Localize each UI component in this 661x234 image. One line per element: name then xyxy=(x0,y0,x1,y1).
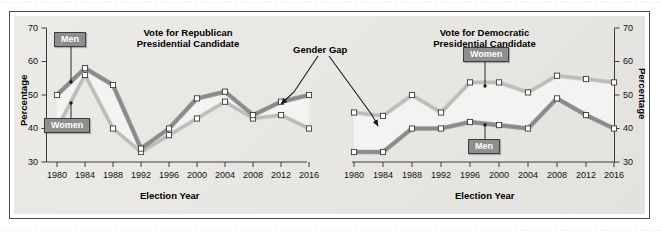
right-xtick-1980: 1980 xyxy=(340,170,368,180)
right-xtick-1988: 1988 xyxy=(398,170,426,180)
left-xtick-2000: 2000 xyxy=(183,170,211,180)
right-men-label: Men xyxy=(468,139,500,154)
right-ytick-40: 40 xyxy=(623,123,639,133)
gender-gap-annotation: Gender Gap xyxy=(293,44,347,55)
left-y-axis-title: Percentage xyxy=(18,75,29,126)
right-xtick-2000: 2000 xyxy=(485,170,513,180)
right-xtick-1992: 1992 xyxy=(427,170,455,180)
left-chart-title: Vote for Republican Presidential Candida… xyxy=(118,27,258,49)
right-y-axis-title: Percentage xyxy=(637,68,648,119)
right-title-line1: Vote for Democratic xyxy=(440,27,530,38)
left-xtick-2004: 2004 xyxy=(211,170,239,180)
right-xtick-2004: 2004 xyxy=(514,170,542,180)
left-xtick-1988: 1988 xyxy=(99,170,127,180)
left-title-line1: Vote for Republican xyxy=(143,27,232,38)
right-xtick-2008: 2008 xyxy=(543,170,571,180)
right-ytick-70: 70 xyxy=(623,23,639,33)
left-xtick-1992: 1992 xyxy=(127,170,155,180)
left-men-label: Men xyxy=(54,32,86,47)
right-ytick-60: 60 xyxy=(623,56,639,66)
left-x-axis-title: Election Year xyxy=(140,190,200,201)
right-chart-title: Vote for Democratic Presidential Candida… xyxy=(412,27,557,49)
right-xtick-2012: 2012 xyxy=(572,170,600,180)
left-ytick-70: 70 xyxy=(22,23,38,33)
left-ytick-30: 30 xyxy=(22,157,38,167)
left-xtick-2016: 2016 xyxy=(295,170,323,180)
left-women-label: Women xyxy=(44,118,90,133)
right-ytick-30: 30 xyxy=(623,157,639,167)
left-xtick-1996: 1996 xyxy=(155,170,183,180)
right-x-axis-title: Election Year xyxy=(455,190,515,201)
right-women-label: Women xyxy=(463,47,509,62)
right-xtick-1996: 1996 xyxy=(456,170,484,180)
left-xtick-2012: 2012 xyxy=(267,170,295,180)
left-title-line2: Presidential Candidate xyxy=(137,38,239,49)
left-xtick-1984: 1984 xyxy=(71,170,99,180)
left-xtick-1980: 1980 xyxy=(43,170,71,180)
left-ytick-60: 60 xyxy=(22,56,38,66)
figure-root: Vote for Republican Presidential Candida… xyxy=(0,0,661,234)
right-xtick-2016: 2016 xyxy=(600,170,628,180)
right-xtick-1984: 1984 xyxy=(369,170,397,180)
left-xtick-2008: 2008 xyxy=(239,170,267,180)
chart-canvas xyxy=(0,0,661,234)
